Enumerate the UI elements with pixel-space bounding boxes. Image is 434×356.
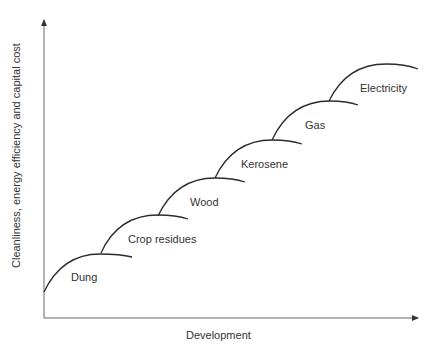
x-axis-title: Development (186, 329, 251, 341)
label-wood: Wood (190, 196, 219, 208)
label-gas: Gas (305, 119, 326, 131)
label-kerosene: Kerosene (241, 158, 288, 170)
label-crop-residues: Crop residues (128, 233, 197, 245)
label-dung: Dung (71, 271, 97, 283)
label-electricity: Electricity (360, 82, 408, 94)
y-axis-title: Cleanliness, energy efficiency and capit… (10, 43, 22, 268)
energy-ladder-diagram: Dung Crop residues Wood Kerosene Gas Ele… (0, 0, 434, 356)
